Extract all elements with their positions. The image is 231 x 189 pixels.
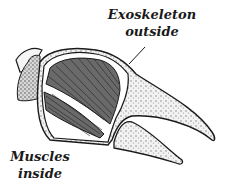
exoskeleton-label-line1: Exoskeleton	[106, 6, 198, 23]
exoskeleton-label-line2: outside	[106, 23, 198, 40]
exoskeleton-label: Exoskeleton outside	[106, 6, 198, 40]
muscles-label-line2: inside	[2, 165, 78, 182]
diagram: Exoskeleton outside Muscles inside	[0, 0, 231, 189]
muscles-label-line1: Muscles	[2, 148, 78, 165]
muscles-label: Muscles inside	[2, 148, 78, 182]
exoskeleton-leader-line	[129, 47, 145, 64]
